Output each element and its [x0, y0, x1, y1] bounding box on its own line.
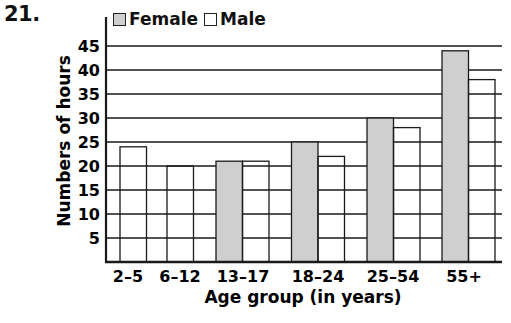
bar-male — [318, 156, 345, 262]
y-tick-label: 10 — [78, 205, 100, 224]
bar-male — [469, 80, 496, 262]
bars — [120, 51, 495, 262]
y-axis-title: Numbers of hours — [54, 55, 74, 227]
y-tick-label: 30 — [78, 109, 100, 128]
x-tick-label: 2–5 — [113, 267, 143, 286]
y-tick-label: 35 — [78, 85, 100, 104]
x-tick-label: 18–24 — [292, 267, 345, 286]
bar-male — [120, 147, 147, 262]
y-tick-label: 40 — [78, 61, 100, 80]
x-axis-title: Age group (in years) — [204, 287, 401, 307]
y-tick-labels: 51015202530354045 — [78, 37, 100, 248]
x-tick-label: 13–17 — [217, 267, 270, 286]
bar-female — [292, 142, 319, 262]
y-tick-label: 20 — [78, 157, 100, 176]
y-tick-label: 25 — [78, 133, 100, 152]
y-tick-label: 45 — [78, 37, 100, 56]
bar-male — [394, 128, 421, 262]
bar-chart: 51015202530354045 2–56–1213–1718–2425–54… — [0, 0, 511, 323]
x-tick-label: 6–12 — [159, 267, 200, 286]
bar-female — [216, 161, 243, 262]
bar-female — [367, 118, 394, 262]
bar-male — [243, 161, 270, 262]
y-tick-label: 5 — [89, 229, 100, 248]
x-tick-label: 25–54 — [367, 267, 420, 286]
x-tick-label: 55+ — [446, 267, 482, 286]
y-tick-label: 15 — [78, 181, 100, 200]
x-tick-labels: 2–56–1213–1718–2425–5455+ — [113, 267, 482, 286]
bar-female — [442, 51, 469, 262]
